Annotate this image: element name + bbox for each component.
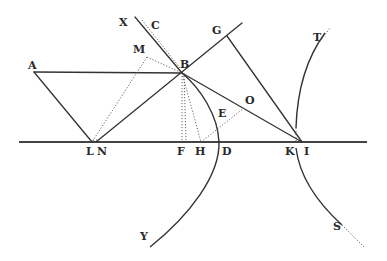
- label-Y: Y: [139, 230, 148, 243]
- line-NG: [96, 23, 242, 142]
- line-BF2-dotted: [184, 73, 186, 142]
- label-T: T: [313, 31, 322, 44]
- curve-BDY: [150, 73, 219, 247]
- label-D: D: [222, 145, 232, 158]
- geometry-diagram: A B C X G M E O T L N F H D K I Y S: [0, 0, 387, 261]
- line-CB-dotted: [142, 20, 180, 68]
- line-AL: [34, 72, 92, 142]
- line-GI: [227, 36, 302, 142]
- label-S: S: [333, 220, 341, 233]
- line-AB: [34, 72, 182, 73]
- label-L: L: [86, 145, 94, 158]
- curve-KS: [296, 148, 342, 225]
- label-A: A: [27, 59, 37, 72]
- line-MB-dotted: [147, 57, 182, 73]
- line-BI: [182, 73, 302, 142]
- curve-S-tail-dotted: [342, 225, 364, 247]
- label-N: N: [97, 145, 107, 158]
- label-G: G: [212, 24, 221, 37]
- label-K: K: [285, 145, 295, 158]
- label-I: I: [304, 145, 309, 158]
- label-O: O: [245, 94, 255, 107]
- label-M: M: [133, 43, 145, 56]
- line-BH-dotted: [182, 73, 201, 142]
- label-C: C: [151, 19, 160, 32]
- label-E: E: [218, 107, 226, 120]
- label-X: X: [119, 16, 128, 29]
- label-F: F: [177, 145, 185, 158]
- label-H: H: [195, 145, 205, 158]
- curve-TK: [296, 33, 325, 128]
- line-ML-dotted: [92, 57, 147, 142]
- label-B: B: [180, 58, 189, 71]
